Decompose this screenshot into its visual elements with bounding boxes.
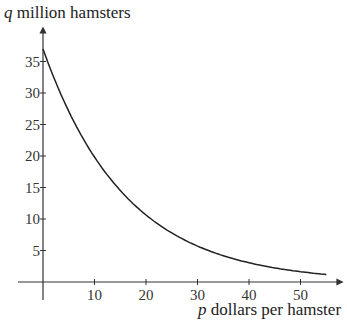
- demand-curve: [43, 49, 326, 275]
- y-tick-label: 25: [25, 117, 40, 133]
- x-tick-label: 10: [87, 287, 102, 303]
- y-tick-label: 10: [25, 211, 40, 227]
- y-tick-label: 5: [33, 243, 41, 259]
- x-axis-variable: p: [198, 300, 207, 319]
- y-tick-label: 35: [25, 54, 40, 70]
- y-tick-label: 20: [25, 148, 40, 164]
- chart-canvas: 1020304050 5101520253035: [0, 0, 347, 335]
- x-axis-label: p dollars per hamster: [198, 300, 341, 320]
- y-axis-variable: q: [4, 3, 13, 22]
- y-tick-label: 15: [25, 180, 40, 196]
- x-axis-label-text: dollars per hamster: [211, 300, 341, 319]
- x-tick-label: 20: [139, 287, 154, 303]
- y-tick-label: 30: [25, 85, 40, 101]
- y-axis-label-text: million hamsters: [17, 3, 131, 22]
- y-axis-label: q million hamsters: [4, 3, 131, 23]
